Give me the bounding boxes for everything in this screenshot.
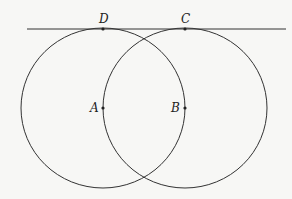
label-a: A xyxy=(89,101,99,115)
label-c: C xyxy=(181,12,190,26)
geometry-diagram: D C A B xyxy=(0,0,292,199)
point-a xyxy=(101,106,104,109)
label-b: B xyxy=(170,101,180,115)
point-c xyxy=(183,27,186,30)
point-d xyxy=(101,27,104,30)
point-b xyxy=(183,106,186,109)
label-d: D xyxy=(98,12,109,26)
